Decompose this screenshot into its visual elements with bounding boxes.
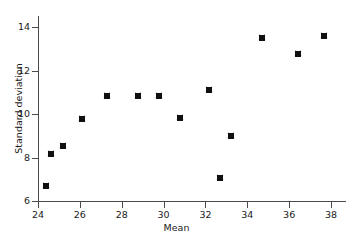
y-tick-label-6: 6 bbox=[24, 196, 30, 206]
x-tick-24 bbox=[38, 202, 39, 208]
y-tick-10 bbox=[32, 114, 38, 115]
x-tick-38 bbox=[331, 202, 332, 208]
x-tick-label-34: 34 bbox=[241, 210, 253, 220]
x-tick-label-24: 24 bbox=[32, 210, 44, 220]
data-point bbox=[259, 35, 265, 41]
x-tick-28 bbox=[122, 202, 123, 208]
data-point bbox=[206, 87, 212, 93]
data-point bbox=[321, 33, 327, 39]
x-axis-line bbox=[38, 201, 346, 202]
x-tick-label-30: 30 bbox=[158, 210, 170, 220]
x-tick-label-36: 36 bbox=[283, 210, 295, 220]
data-point bbox=[177, 115, 183, 121]
y-axis-title: Standard deviation bbox=[13, 34, 24, 184]
x-tick-34 bbox=[247, 202, 248, 208]
x-tick-label-28: 28 bbox=[116, 210, 128, 220]
data-point bbox=[48, 151, 54, 157]
data-point bbox=[295, 51, 301, 57]
data-point bbox=[60, 143, 66, 149]
x-tick-26 bbox=[80, 202, 81, 208]
y-tick-label-8: 8 bbox=[24, 153, 30, 163]
data-point bbox=[156, 93, 162, 99]
data-point bbox=[43, 183, 49, 189]
x-tick-label-26: 26 bbox=[74, 210, 86, 220]
x-axis-title: Mean bbox=[0, 222, 353, 233]
data-point bbox=[79, 116, 85, 122]
y-axis-line bbox=[38, 16, 39, 202]
data-point bbox=[104, 93, 110, 99]
data-point bbox=[135, 93, 141, 99]
y-tick-label-14: 14 bbox=[18, 22, 30, 32]
y-tick-14 bbox=[32, 27, 38, 28]
scatter-plot-figure: 68101214 2426283032343638 Standard devia… bbox=[0, 0, 353, 239]
y-tick-12 bbox=[32, 71, 38, 72]
data-point bbox=[217, 175, 223, 181]
y-tick-8 bbox=[32, 158, 38, 159]
x-tick-label-38: 38 bbox=[325, 210, 337, 220]
x-tick-30 bbox=[164, 202, 165, 208]
data-point bbox=[228, 133, 234, 139]
x-tick-label-32: 32 bbox=[199, 210, 211, 220]
x-tick-36 bbox=[289, 202, 290, 208]
x-tick-32 bbox=[205, 202, 206, 208]
